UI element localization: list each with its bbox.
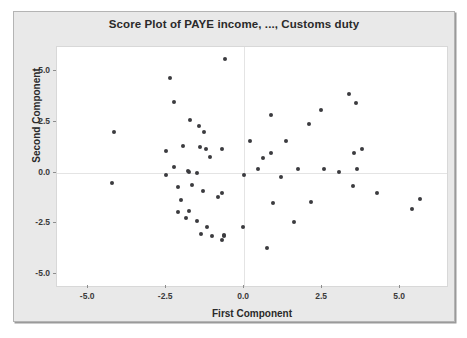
- x-tick-label: 5.0: [393, 291, 405, 301]
- chart-figure: Score Plot of PAYE income, ..., Customs …: [13, 11, 455, 322]
- x-tick-mark: [399, 285, 400, 288]
- data-point: [164, 173, 168, 177]
- x-tick-mark: [243, 285, 244, 288]
- data-point: [271, 201, 275, 205]
- y-tick-mark: [53, 172, 56, 173]
- data-point: [265, 246, 269, 250]
- data-point: [208, 155, 212, 159]
- data-point: [176, 185, 180, 189]
- data-point: [351, 184, 355, 188]
- data-point: [184, 216, 188, 220]
- data-point: [256, 167, 260, 171]
- data-point: [347, 92, 351, 96]
- reference-line-vertical: [244, 47, 245, 286]
- data-point: [190, 183, 194, 187]
- data-point: [223, 57, 227, 61]
- data-point: [355, 167, 359, 171]
- data-point: [352, 151, 356, 155]
- data-point: [187, 209, 191, 213]
- reference-line-horizontal: [57, 173, 447, 174]
- data-point: [179, 198, 183, 202]
- y-tick-mark: [53, 222, 56, 223]
- data-point: [181, 144, 185, 148]
- y-axis-label: Second Component: [31, 46, 42, 186]
- data-point: [242, 173, 246, 177]
- x-axis-label: First Component: [56, 308, 448, 319]
- data-point: [168, 76, 172, 80]
- x-tick-label: 0.0: [237, 291, 249, 301]
- data-point: [220, 191, 224, 195]
- data-point: [199, 232, 203, 236]
- data-point: [418, 197, 422, 201]
- data-point: [292, 220, 296, 224]
- data-point: [375, 191, 379, 195]
- data-point: [284, 139, 288, 143]
- data-point: [269, 113, 273, 117]
- y-tick-mark: [53, 273, 56, 274]
- data-point: [112, 130, 116, 134]
- data-point: [322, 167, 326, 171]
- data-point: [269, 151, 273, 155]
- data-point: [172, 100, 176, 104]
- data-point: [187, 170, 191, 174]
- x-tick-mark: [165, 285, 166, 288]
- y-tick-mark: [53, 70, 56, 71]
- data-point: [220, 147, 224, 151]
- data-point: [248, 139, 252, 143]
- x-tick-label: -5.0: [80, 291, 95, 301]
- data-point: [279, 175, 283, 179]
- data-point: [110, 181, 114, 185]
- data-point: [319, 108, 323, 112]
- data-point: [197, 124, 201, 128]
- data-point: [198, 145, 202, 149]
- chart-title: Score Plot of PAYE income, ..., Customs …: [14, 18, 454, 30]
- data-point: [410, 207, 414, 211]
- data-point: [195, 219, 199, 223]
- data-point: [204, 147, 208, 151]
- data-point: [296, 167, 300, 171]
- data-point: [309, 200, 313, 204]
- data-point: [172, 165, 176, 169]
- y-tick-label: -2.5: [22, 217, 50, 227]
- data-point: [261, 156, 265, 160]
- data-point: [205, 225, 209, 229]
- data-point: [176, 210, 180, 214]
- data-point: [216, 195, 220, 199]
- x-tick-mark: [321, 285, 322, 288]
- x-tick-label: -2.5: [158, 291, 173, 301]
- data-point: [164, 149, 168, 153]
- x-tick-label: 2.5: [315, 291, 327, 301]
- data-point: [220, 238, 224, 242]
- plot-area: [56, 46, 448, 287]
- data-point: [201, 189, 205, 193]
- data-point: [354, 101, 358, 105]
- data-point: [210, 234, 214, 238]
- data-point: [195, 171, 199, 175]
- y-tick-label: -5.0: [22, 268, 50, 278]
- data-point: [241, 225, 245, 229]
- data-point: [202, 130, 206, 134]
- data-point: [188, 118, 192, 122]
- x-tick-mark: [87, 285, 88, 288]
- data-point: [360, 147, 364, 151]
- y-tick-mark: [53, 121, 56, 122]
- data-point: [307, 122, 311, 126]
